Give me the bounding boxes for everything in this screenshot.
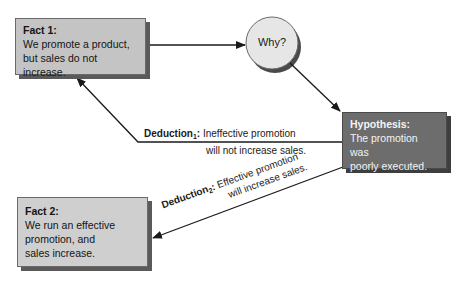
arrow-why-to-hypothesis	[290, 63, 340, 111]
hypothesis-title: Hypothesis:	[350, 117, 439, 131]
hypothesis-line: poorly executed.	[350, 159, 439, 173]
fact1-box: Fact 1: We promote a product, but sales …	[15, 18, 146, 75]
fact1-line: but sales do not increase.	[23, 51, 138, 79]
deduction1-text: Ineffective promotion	[203, 128, 296, 139]
fact2-box: Fact 2: We run an effective promotion, a…	[17, 197, 148, 267]
deduction1-label: Deduction1: Ineffective promotion	[144, 128, 296, 140]
deduction1-name: Deduction	[144, 128, 193, 139]
fact2-line: We run an effective	[25, 218, 140, 232]
why-label: Why?	[246, 36, 298, 48]
fact2-title: Fact 2:	[25, 204, 140, 218]
fact2-line: promotion, and	[25, 232, 140, 246]
fact1-title: Fact 1:	[23, 23, 138, 37]
deduction1-colon: :	[197, 128, 200, 139]
fact2-line: sales increase.	[25, 246, 140, 260]
fact1-line: We promote a product,	[23, 37, 138, 51]
